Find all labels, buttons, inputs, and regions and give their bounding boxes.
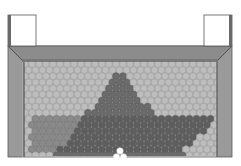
disc-light: [190, 73, 197, 80]
disc-light: [172, 79, 179, 86]
disc-light: [204, 134, 211, 141]
disc-mid: [60, 128, 67, 135]
disc-darker: [134, 122, 141, 129]
disc-mid: [36, 134, 43, 141]
left-post: [8, 15, 36, 46]
disc-dark: [120, 97, 127, 104]
disc-light: [197, 134, 204, 141]
disc-light: [155, 85, 162, 92]
disc-darker: [172, 140, 179, 147]
disc-light: [57, 73, 64, 80]
disc-dark: [116, 91, 123, 98]
disc-light: [158, 79, 165, 86]
disc-mid: [32, 116, 39, 123]
disc-mid: [60, 116, 67, 123]
disc-darker: [88, 116, 95, 123]
disc-light: [78, 85, 85, 92]
disc-darker: [155, 146, 162, 153]
disc-mid: [67, 128, 74, 135]
disc-darker: [102, 140, 109, 147]
disc-mid: [53, 128, 60, 135]
disc-light: [92, 85, 99, 92]
disc-darker: [134, 146, 141, 153]
disc-light: [193, 79, 200, 86]
disc-light: [60, 91, 67, 98]
disc-light: [50, 97, 57, 104]
disc-darker: [148, 122, 155, 129]
disc-dark: [127, 109, 134, 116]
disc-light: [183, 109, 190, 116]
disc-darker: [64, 146, 71, 153]
disc-dark: [123, 79, 130, 86]
disc-light: [50, 61, 57, 68]
disc-light: [81, 79, 88, 86]
disc-light: [92, 61, 99, 68]
disc-dark: [144, 103, 151, 110]
disc-darker: [78, 122, 85, 129]
disc-light: [95, 91, 102, 98]
disc-darker: [123, 140, 130, 147]
disc-light: [95, 79, 102, 86]
disc-dark: [165, 152, 172, 159]
disc-light: [43, 61, 50, 68]
disc-darker: [169, 122, 176, 129]
disc-darker: [85, 146, 92, 153]
disc-light: [32, 103, 39, 110]
disc-dark: [123, 103, 130, 110]
disc-darker: [106, 122, 113, 129]
disc-light: [29, 109, 36, 116]
disc-darker: [183, 122, 190, 129]
disc-light: [43, 97, 50, 104]
disc-darker: [165, 128, 172, 135]
disc-darker: [176, 134, 183, 141]
disc-light: [85, 85, 92, 92]
disc-light: [99, 61, 106, 68]
disc-light: [53, 79, 60, 86]
disc-darker: [141, 122, 148, 129]
disc-dark: [95, 103, 102, 110]
disc-light: [158, 67, 165, 74]
disc-light: [207, 140, 214, 147]
disc-light: [186, 91, 193, 98]
disc-light: [176, 61, 183, 68]
disc-dark: [85, 109, 92, 116]
disc-darker: [158, 128, 165, 135]
disc-light: [25, 79, 32, 86]
disc-dark: [116, 103, 123, 110]
disc-light: [67, 91, 74, 98]
disc-light: [158, 91, 165, 98]
disc-light: [25, 152, 32, 159]
disc-light: [148, 97, 155, 104]
disc-light: [25, 91, 32, 98]
disc-light: [36, 109, 43, 116]
disc-light: [207, 103, 214, 110]
disc-light: [71, 73, 78, 80]
disc-mid: [57, 122, 64, 129]
disc-darker: [88, 140, 95, 147]
disc-dark: [113, 73, 120, 80]
disc-light: [190, 61, 197, 68]
disc-light: [200, 103, 207, 110]
disc-dark: [67, 152, 74, 159]
disc-light: [151, 67, 158, 74]
disc-light: [39, 103, 46, 110]
disc-light: [211, 109, 218, 116]
disc-darker: [113, 122, 120, 129]
disc-darker: [148, 134, 155, 141]
disc-darker: [148, 146, 155, 153]
disc-light: [102, 79, 109, 86]
disc-light: [36, 85, 43, 92]
disc-darker: [165, 116, 172, 123]
disc-light: [60, 67, 67, 74]
disc-light: [50, 109, 57, 116]
disc-light: [204, 146, 211, 153]
disc-dark: [106, 109, 113, 116]
disc-mid: [39, 140, 46, 147]
disc-light: [158, 103, 165, 110]
disc-dark: [102, 103, 109, 110]
disc-light: [148, 61, 155, 68]
disc-dark: [81, 152, 88, 159]
disc-light: [36, 61, 43, 68]
disc-darker: [176, 146, 183, 153]
disc-darker: [81, 140, 88, 147]
